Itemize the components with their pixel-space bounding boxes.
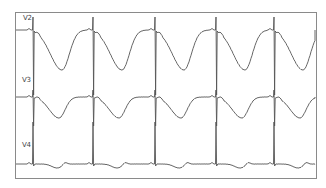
ecg-traces: [16, 17, 315, 168]
chart-frame: [16, 13, 317, 179]
lead-label-v3: V3: [22, 76, 31, 84]
lead-label-v2: V2: [23, 14, 32, 22]
ecg-chart: [0, 0, 326, 188]
lead-label-v4: V4: [22, 141, 31, 149]
ecg-trace-v4: [16, 122, 315, 168]
ecg-trace-v3: [16, 90, 315, 126]
ecg-trace-v2: [16, 17, 315, 95]
